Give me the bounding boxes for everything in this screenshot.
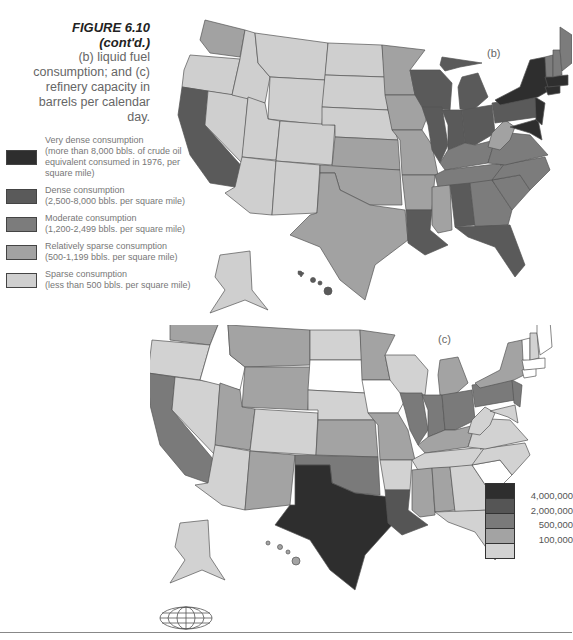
state-nj xyxy=(535,97,545,125)
legend-swatch xyxy=(485,483,515,499)
state-nd xyxy=(310,330,362,360)
state-oh xyxy=(442,390,475,430)
legend-label: Sparse consumption xyxy=(45,269,127,279)
state-vt xyxy=(545,55,553,77)
page-rule xyxy=(0,632,572,633)
state-mi xyxy=(440,57,482,71)
legend-swatch xyxy=(6,273,37,288)
state-ar xyxy=(402,175,435,210)
legend-item: Moderate consumption(1,200-2,499 bbls. p… xyxy=(6,213,196,235)
legend-detail: (1,200-2,499 bbls. per square mile) xyxy=(45,224,185,234)
legend-item: Very dense consumption(more than 8,000 b… xyxy=(6,135,196,179)
state-vt xyxy=(522,338,530,360)
state-wy xyxy=(268,77,325,125)
state-mi-lower xyxy=(458,73,488,111)
legend-label: 2,000,000 xyxy=(521,504,573,519)
state-nd xyxy=(325,43,385,77)
legend-swatch xyxy=(6,150,37,165)
legend-swatch xyxy=(485,499,515,514)
legend-detail: (2,500-8,000 bbls. per square mile) xyxy=(45,196,185,206)
state-ny xyxy=(495,57,550,105)
legend-swatch xyxy=(6,217,37,232)
legend-swatch xyxy=(6,245,37,260)
state-ny xyxy=(475,340,528,388)
state-me xyxy=(560,27,572,71)
state-wa xyxy=(200,20,245,57)
state-co xyxy=(250,409,318,455)
map-c-refinery-capacity xyxy=(150,325,572,605)
state-nm xyxy=(245,451,295,510)
state-fl xyxy=(455,225,525,277)
state-mt xyxy=(228,325,310,367)
state-or xyxy=(150,340,210,380)
state-nm xyxy=(272,161,320,215)
legend-item: Dense consumption(2,500-8,000 bbls. per … xyxy=(6,185,196,207)
legend-detail: (500-1,199 bbls. per square mile) xyxy=(45,252,178,262)
map-b-liquid-fuel-consumption xyxy=(170,15,572,315)
state-sd xyxy=(308,360,365,393)
legend-label: Relatively sparse consumption xyxy=(45,241,167,251)
legend-swatch xyxy=(485,544,515,559)
figure-label: FIGURE 6.10 (cont'd.) xyxy=(20,20,150,50)
globe-icon xyxy=(158,605,214,631)
figure-caption: FIGURE 6.10 (cont'd.) (b) liquid fuel co… xyxy=(20,20,150,125)
state-ks xyxy=(332,137,400,170)
state-ar xyxy=(380,460,412,490)
panel-label-b: (b) xyxy=(487,47,500,59)
legend-swatch xyxy=(485,514,515,529)
state-ms xyxy=(432,185,452,233)
state-ks xyxy=(316,420,378,457)
legend-item: Sparse consumption(less than 500 bbls. p… xyxy=(6,269,196,291)
legend-swatch xyxy=(485,529,515,544)
legend-detail: (more than 8,000 bbls. of crude oil equi… xyxy=(45,146,182,178)
legend-detail: (less than 500 bbls. per square mile) xyxy=(45,280,191,290)
state-wy xyxy=(242,367,310,410)
legend-label: Very dense consumption xyxy=(45,135,144,145)
legend-label: Dense consumption xyxy=(45,185,125,195)
state-mi xyxy=(438,357,468,397)
state-sd xyxy=(322,75,388,110)
legend-label: Moderate consumption xyxy=(45,213,137,223)
panel-label-c: (c) xyxy=(438,333,451,345)
legend-item: Relatively sparse consumption(500-1,199 … xyxy=(6,241,196,263)
state-nj xyxy=(512,380,522,407)
state-ak xyxy=(210,251,268,313)
legend-label: 4,000,000 xyxy=(521,489,573,504)
state-co xyxy=(276,121,335,165)
legend-swatch xyxy=(6,189,37,204)
legend-consumption: Very dense consumption(more than 8,000 b… xyxy=(6,135,196,297)
legend-label: 500,000 xyxy=(521,518,573,533)
state-ak xyxy=(170,520,225,583)
state-me xyxy=(537,325,552,355)
legend-label: 100,000 xyxy=(521,533,573,548)
figure-caption-text: (b) liquid fuel consumption; and (c) ref… xyxy=(20,50,150,125)
state-ms xyxy=(412,468,435,517)
legend-refinery-capacity: 4,000,000 2,000,000 500,000 100,000 xyxy=(485,483,515,559)
